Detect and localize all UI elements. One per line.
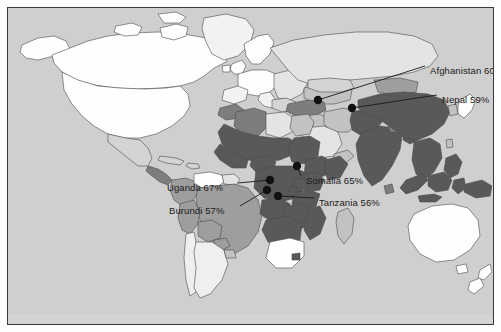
annotation-label-nepal: Nepal 59% xyxy=(442,94,489,105)
country-srilanka xyxy=(384,184,394,194)
annotation-label-tanzania: Tanzania 56% xyxy=(319,197,380,208)
annotation-label-uganda: Uganda 67% xyxy=(167,182,223,193)
world-map-svg xyxy=(8,8,492,323)
marker-dot-tanzania xyxy=(274,192,282,200)
annotation-label-burundi: Burundi 57% xyxy=(169,205,225,216)
marker-dot-burundi xyxy=(263,186,271,194)
annotation-label-afghanistan: Afghanistan 60% xyxy=(430,65,494,76)
island-tasmania xyxy=(456,264,468,274)
marker-dot-uganda xyxy=(266,176,274,184)
map-frame: Afghanistan 60% Nepal 59% Somalia 65% Ta… xyxy=(7,7,494,325)
country-lesotho xyxy=(292,253,300,260)
island-taiwan xyxy=(446,139,453,148)
country-korea xyxy=(448,104,458,116)
country-kazakhstan xyxy=(308,78,354,92)
country-burundi-rwanda xyxy=(288,186,298,196)
figure-root: Afghanistan 60% Nepal 59% Somalia 65% Ta… xyxy=(0,0,501,332)
country-uruguay xyxy=(224,250,236,258)
country-ireland xyxy=(222,65,230,72)
marker-dot-nepal xyxy=(348,104,356,112)
continent-antarctica xyxy=(8,314,492,323)
marker-dot-somalia xyxy=(293,162,301,170)
marker-dot-afghanistan xyxy=(314,96,322,104)
country-egypt xyxy=(290,114,314,136)
annotation-label-somalia: Somalia 65% xyxy=(306,175,363,186)
